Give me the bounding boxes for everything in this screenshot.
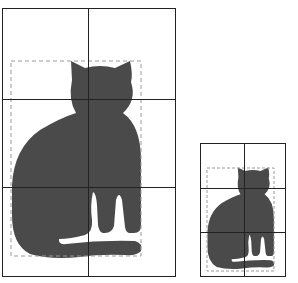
cat-grid-diagram <box>0 0 298 283</box>
cat-silhouette-small <box>207 168 274 269</box>
large-figure <box>2 8 176 277</box>
cat-silhouette-large <box>12 61 141 258</box>
small-figure <box>200 143 286 277</box>
